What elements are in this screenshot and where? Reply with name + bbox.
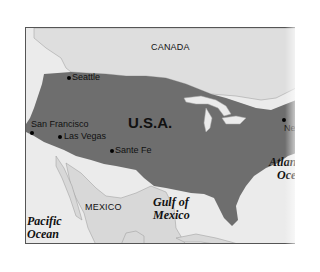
pacific-line2: Ocean <box>27 228 62 241</box>
gulf-line2: Mexico <box>153 209 190 222</box>
label-mexico: MEXICO <box>85 202 122 212</box>
label-sante-fe: Sante Fe <box>115 145 152 155</box>
city-marker-san-francisco <box>30 131 34 135</box>
label-san-francisco: San Francisco <box>31 119 89 129</box>
city-marker-sante-fe <box>110 149 114 153</box>
label-canada: CANADA <box>151 42 190 52</box>
city-marker-seattle <box>67 76 71 80</box>
label-gulf-of-mexico: Gulf of Mexico <box>153 196 190 222</box>
label-usa: U.S.A. <box>128 114 172 131</box>
edge-fade <box>285 0 299 272</box>
city-marker-las-vegas <box>58 135 62 139</box>
label-las-vegas: Las Vegas <box>64 131 106 141</box>
label-pacific-ocean: Pacific Ocean <box>27 215 62 241</box>
map-frame: CANADA U.S.A. MEXICO Seattle San Francis… <box>25 27 295 244</box>
label-seattle: Seattle <box>72 72 100 82</box>
